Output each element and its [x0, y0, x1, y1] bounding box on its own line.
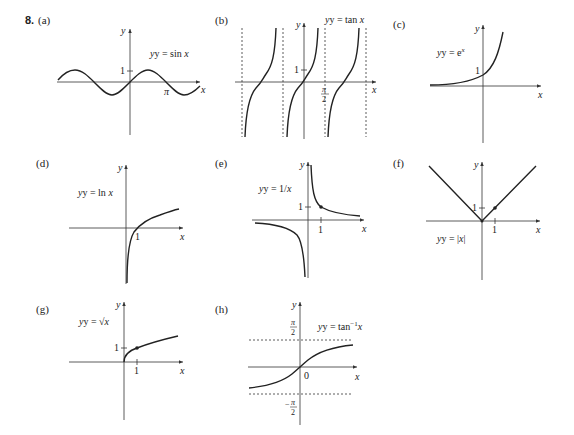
- panel-label-d: (d): [36, 157, 49, 170]
- tick-label-x1: 1: [134, 365, 139, 376]
- equation-label: yy = ex: [436, 46, 466, 58]
- equation-label: yy = |x|: [436, 233, 466, 244]
- graph-c-exp: (c) x y 1 yy = ex: [393, 18, 543, 143]
- graph-h-arctan: (h) x y π 2 − π 2 0 yy = tan−1x: [215, 299, 363, 425]
- graph-g-sqrt: (g) x y 1 1 yy = √x: [36, 299, 185, 420]
- tick-label-0: 0: [304, 370, 309, 381]
- arctan-curve: [249, 345, 353, 388]
- svg-text:2: 2: [291, 328, 295, 337]
- graph-b-tan: (b) x y 1 π 2 yy = tan x: [215, 14, 377, 139]
- x-axis-label: x: [200, 84, 206, 95]
- svg-text:2: 2: [291, 408, 295, 417]
- tick-label-1: 1: [135, 231, 140, 242]
- exp-curve: [430, 32, 503, 85]
- panel-label-g: (g): [36, 303, 49, 316]
- ln-curve: [127, 209, 179, 283]
- y-axis-label: y: [291, 299, 297, 310]
- x-axis-label: x: [354, 371, 360, 382]
- equation-label: yy = tan x: [324, 14, 365, 25]
- tick-label-1: 1: [294, 64, 299, 75]
- tan-branch: [245, 28, 276, 137]
- tick-label-1: 1: [475, 65, 480, 76]
- tick-label-y1: 1: [114, 342, 119, 353]
- y-axis-label: y: [120, 25, 126, 36]
- point-1-1: [135, 346, 139, 350]
- equation-label: yy = √x: [78, 316, 110, 327]
- panel-label-a: (a): [38, 14, 51, 27]
- tan-branch: [328, 28, 359, 137]
- problem-number: 8.: [25, 14, 34, 26]
- abs-curve: [429, 166, 536, 221]
- y-axis-label: y: [117, 162, 123, 173]
- x-axis-label: x: [371, 84, 377, 95]
- tick-label-x1: 1: [318, 224, 323, 235]
- tick-label-pi: π: [164, 86, 170, 97]
- tick-label-y1: 1: [298, 201, 303, 212]
- x-axis-label: x: [537, 89, 543, 100]
- graph-d-ln: (d) x y 1 yy = ln x: [36, 157, 185, 284]
- reciprocal-branch-negative: [255, 223, 305, 277]
- svg-text:π: π: [291, 318, 296, 327]
- equation-label: yy = sin x: [149, 48, 189, 59]
- equation-label: yy = 1/x: [258, 183, 292, 194]
- y-axis-label: y: [474, 23, 480, 34]
- y-axis-label: y: [115, 299, 121, 310]
- function-graphs-figure: 8. (a) x y 1 π yy = sin x (b) x y 1 π 2 …: [0, 0, 574, 435]
- point-1-1: [493, 206, 497, 210]
- graph-a-sin: (a) x y 1 π yy = sin x: [38, 14, 206, 135]
- equation-label: yy = tan−1x: [317, 320, 363, 332]
- y-axis-label: y: [295, 19, 301, 30]
- x-axis-label: x: [535, 224, 541, 235]
- equation-label: yy = ln x: [77, 187, 113, 198]
- panel-label-e: (e): [215, 157, 228, 170]
- y-axis-label: y: [473, 159, 479, 170]
- panel-label-h: (h): [215, 303, 228, 316]
- svg-text:−: −: [285, 400, 290, 409]
- reciprocal-branch-positive: [311, 165, 360, 216]
- sqrt-curve: [124, 336, 178, 362]
- point-1-1: [319, 205, 323, 209]
- svg-text:2: 2: [322, 95, 326, 104]
- svg-text:π: π: [322, 85, 327, 94]
- tick-label-x1: 1: [492, 224, 497, 235]
- graph-e-reciprocal: (e) x y 1 1 yy = 1/x: [215, 157, 367, 278]
- graph-f-abs: (f) x y 1 1 yy = |x|: [393, 157, 541, 280]
- origin-point: [481, 220, 484, 223]
- panel-label-c: (c): [393, 18, 406, 31]
- panel-label-b: (b): [215, 14, 228, 27]
- panel-label-f: (f): [393, 157, 404, 170]
- x-axis-label: x: [361, 223, 367, 234]
- x-axis-label: x: [179, 365, 185, 376]
- x-axis-label: x: [179, 231, 185, 242]
- tan-branch: [287, 28, 318, 137]
- tick-label-1: 1: [120, 65, 125, 76]
- y-axis-label: y: [299, 159, 305, 170]
- svg-text:π: π: [291, 398, 296, 407]
- sin-curve: [58, 70, 200, 95]
